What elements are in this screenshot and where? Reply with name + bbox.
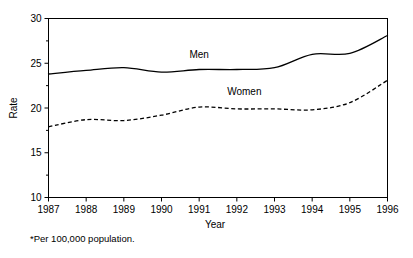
x-tick-label: 1989 [113,204,136,215]
y-tick-label: 25 [30,58,42,69]
footnote-text: *Per 100,000 population. [30,233,135,244]
line-chart: 1015202530 19871988198919901991199219931… [0,0,413,258]
x-tick-label: 1987 [37,204,60,215]
x-tick-label: 1991 [188,204,211,215]
series-label-women: Women [227,86,261,97]
y-tick-label: 30 [30,13,42,24]
x-tick-label: 1995 [339,204,362,215]
x-tick-label: 1994 [301,204,324,215]
x-tick-label: 1996 [376,204,399,215]
chart-figure: 1015202530 19871988198919901991199219931… [0,0,413,258]
y-tick-label: 10 [30,192,42,203]
series-label-men: Men [189,49,208,60]
y-tick-label: 15 [30,147,42,158]
x-tick-label: 1988 [75,204,98,215]
x-tick-label: 1992 [226,204,249,215]
y-axis-title: Rate [8,97,19,119]
x-tick-label: 1993 [263,204,286,215]
y-tick-label: 20 [30,103,42,114]
x-axis-title: Year [205,219,226,230]
x-tick-label: 1990 [150,204,173,215]
